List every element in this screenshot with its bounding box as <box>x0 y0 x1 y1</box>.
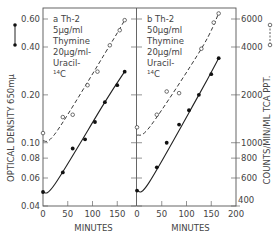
panel-annotation-line: 20µg/ml <box>147 47 182 57</box>
counts-data-point <box>177 91 181 95</box>
counts-data-point <box>155 113 159 117</box>
od-data-point <box>187 108 191 112</box>
panel-annotation-line: a Th-2 <box>53 14 80 24</box>
y-tick-label-left: 0.06 <box>21 173 40 183</box>
panel-annotation-line: Thymine <box>146 36 184 46</box>
chart: 0.600.400.200.100.080.060.04600040002000… <box>0 0 278 235</box>
od-data-point <box>217 56 221 60</box>
counts-data-point <box>123 18 127 22</box>
od-data-point <box>197 93 201 97</box>
x-tick-label: 150 <box>203 209 219 219</box>
od-curve <box>43 72 125 193</box>
od-data-point <box>209 72 213 76</box>
panel-annotation-line: Thymine <box>52 36 90 46</box>
right-axis-title: COUNTS/MIN/ML TCA PPT. <box>262 76 272 185</box>
counts-data-point <box>217 12 221 16</box>
counts-data-point <box>96 70 100 74</box>
od-data-point <box>83 137 87 141</box>
panel-annotation-line: Uracil- <box>53 58 80 68</box>
y-tick-label-right: 800 <box>241 153 257 163</box>
y-tick-label-right: 2000 <box>241 90 263 100</box>
counts-data-point <box>41 131 45 135</box>
od-data-point <box>155 165 159 169</box>
od-data-point <box>135 189 139 193</box>
od-data-point <box>93 120 97 124</box>
counts-data-point <box>71 113 75 117</box>
counts-data-point <box>61 115 65 119</box>
x-tick-label: 100 <box>178 209 194 219</box>
y-tick-label-left: 0.20 <box>21 90 40 100</box>
y-tick-label-left: 0.10 <box>21 138 40 148</box>
counts-data-point <box>118 28 122 32</box>
counts-data-point <box>108 43 112 47</box>
x-tick-label: 50 <box>156 209 167 219</box>
od-data-point <box>115 83 119 87</box>
panel-annotation-line: b Th-2 <box>147 14 174 24</box>
x-axis-title: MINUTES <box>74 223 112 233</box>
left-axis-title: OPTICAL DENSITY 650mµ <box>6 73 16 181</box>
od-data-point <box>103 100 107 104</box>
y-tick-label-right: 1000 <box>241 138 263 148</box>
counts-data-point <box>86 83 90 87</box>
od-data-point <box>61 171 65 175</box>
y-tick-label-right: 400 <box>238 195 254 205</box>
od-data-point <box>71 147 75 151</box>
x-tick-label: 0 <box>134 209 139 219</box>
od-data-point <box>123 70 127 74</box>
y-tick-label-left: 0.04 <box>21 201 40 211</box>
panel-annotation-line: 5µg/ml <box>53 25 83 35</box>
od-data-point <box>177 123 181 127</box>
x-axis-title: MINUTES <box>171 223 209 233</box>
x-tick-label: 200 <box>228 209 244 219</box>
counts-data-point <box>200 47 204 51</box>
y-tick-label-left: 0.60 <box>21 14 40 24</box>
panel-annotation-line: 14C <box>147 69 160 79</box>
y-tick-label-right: 4000 <box>241 42 263 52</box>
counts-data-point <box>212 21 216 25</box>
counts-data-point <box>135 126 139 130</box>
od-data-point <box>165 141 169 145</box>
legend-open-dashed <box>268 23 272 47</box>
panel-annotation-line: 20µg/ml- <box>53 47 91 57</box>
y-tick-label-left: 0.40 <box>21 42 40 52</box>
od-data-point <box>41 190 45 194</box>
y-tick-label-left: 0.08 <box>21 153 40 163</box>
x-tick-label: 0 <box>40 209 45 219</box>
panel-annotation-line: Uracil- <box>147 58 174 68</box>
panel-annotation-line: 14C <box>53 69 66 79</box>
x-tick-label: 100 <box>84 209 100 219</box>
x-tick-label: 50 <box>62 209 73 219</box>
x-tick-label: 150 <box>109 209 125 219</box>
counts-data-point <box>165 90 169 94</box>
y-tick-label-right: 6000 <box>241 14 263 24</box>
legend-filled-line <box>13 23 17 47</box>
y-tick-label-right: 600 <box>241 173 257 183</box>
panel-annotation-line: 50µg/ml <box>147 25 182 35</box>
